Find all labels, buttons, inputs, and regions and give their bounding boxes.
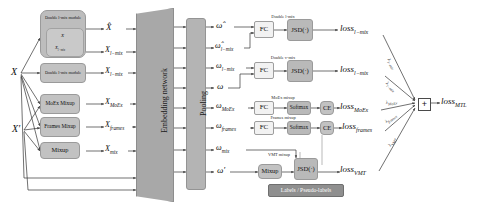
loss-moex: lossMoEx <box>340 101 368 113</box>
loss-l-mix-2: lossl−mix <box>340 64 368 76</box>
frames-mixup-label: Frames Mixup <box>44 123 76 130</box>
mixed-input-x-frames: Xframes <box>105 120 124 131</box>
lambda-moex: λMoEx <box>386 98 398 106</box>
embedding-network-label: Embedding network <box>160 49 169 153</box>
inner-node-x: X <box>61 33 64 38</box>
fc-block-3[interactable]: FC <box>254 101 274 115</box>
frames-mixup-box[interactable]: Frames Mixup <box>40 117 80 137</box>
loss-vmt: lossVMT <box>340 164 366 176</box>
inner-node-x-lmix: Xl−mix <box>55 46 65 52</box>
fc-block-4[interactable]: FC <box>254 121 274 135</box>
mixed-input-x-hat: X̂ <box>106 22 112 32</box>
sum-node: + <box>418 98 431 111</box>
pooling-label: Pooling <box>199 66 208 142</box>
mixed-input-x-moex: XMoEx <box>105 97 122 108</box>
caption-moex-mixup: MoEx mixup <box>252 95 314 100</box>
double-l-mix-module-bottom-label: Double l-mix module <box>45 70 81 75</box>
loss-frames: lossframes <box>342 121 372 133</box>
lambda-frames: λframes <box>384 112 398 125</box>
omega-frames: ωframes <box>216 121 236 132</box>
moex-mixup-label: MoEx Mixup <box>45 100 74 107</box>
caption-vmt-mixup: VMT mixup <box>248 152 310 157</box>
omega-mix: ωmix <box>216 143 229 154</box>
mixed-input-x-mix: Xmix <box>105 144 118 155</box>
omega: ω <box>217 81 223 91</box>
jsd-block-2[interactable]: JSD(·) <box>287 60 313 82</box>
mixed-input-x-lmix-2: Xl−mix <box>105 66 123 77</box>
fc-block-2[interactable]: FC <box>254 62 274 79</box>
loss-l-mix-1: lossl−mix <box>340 23 368 35</box>
lambda-vmt: λVMT <box>387 136 398 148</box>
omega-moex: ωMoEx <box>216 101 234 112</box>
moex-mixup-box[interactable]: MoEx Mixup <box>40 94 80 114</box>
omega-lmix: ωl−mix <box>216 61 234 72</box>
double-l-mix-inner-panel <box>46 28 84 57</box>
omega-prime: ω′ <box>217 165 225 175</box>
double-l-mix-module-top-label: Double l-mix module <box>41 15 85 20</box>
ce-block-2[interactable]: CE <box>320 121 334 135</box>
omega-hat-lmix: ω̂l−mix <box>215 41 233 52</box>
fc-block-1[interactable]: FC <box>254 21 274 38</box>
softmax-block-1[interactable]: Softmax <box>287 101 311 115</box>
input-x: X <box>11 66 17 77</box>
double-l-mix-module-top[interactable]: Double l-mix module X Xl−mix <box>40 10 86 58</box>
lambda-l-mix-2: λl−mix <box>384 81 397 93</box>
softmax-block-2[interactable]: Softmax <box>287 121 311 135</box>
mixed-input-x-lmix-1: Xl−mix <box>105 45 123 56</box>
input-x-prime: X′ <box>12 123 20 134</box>
labels-pseudolabels-bar[interactable]: Labels / Pseudo-labels <box>268 184 344 197</box>
loss-mtl: lossMTL <box>441 96 467 108</box>
caption-frames-mixup: Frames mixup <box>252 115 314 120</box>
jsd-block-1[interactable]: JSD(·) <box>287 19 313 41</box>
ce-block-1[interactable]: CE <box>320 101 334 115</box>
lambda-l-mix-1: λl−mix <box>385 58 397 71</box>
mixup-left-label: Mixup <box>51 147 68 154</box>
mixup-box-left[interactable]: Mixup <box>40 142 80 159</box>
omega-hat: ω̂ <box>216 20 222 30</box>
architecture-diagram: X X′ Double l-mix module X Xl−mix Double… <box>0 0 486 211</box>
jsd-block-3[interactable]: JSD(·) <box>294 158 318 180</box>
mixup-block-right[interactable]: Mixup <box>258 164 282 179</box>
double-l-mix-module-bottom[interactable]: Double l-mix module <box>40 63 86 83</box>
